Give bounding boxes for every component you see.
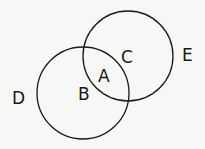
label-a: A bbox=[98, 66, 110, 86]
label-c: C bbox=[121, 47, 133, 67]
label-d: D bbox=[12, 88, 25, 108]
label-b: B bbox=[78, 84, 90, 104]
venn-diagram: D B A C E bbox=[0, 0, 205, 149]
label-e: E bbox=[182, 45, 193, 65]
